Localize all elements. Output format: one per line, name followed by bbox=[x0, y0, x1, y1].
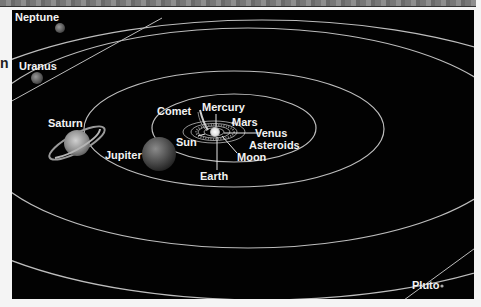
label-sun: Sun bbox=[176, 137, 197, 148]
solar-system-diagram: Neptune Uranus Saturn Jupiter Comet Merc… bbox=[12, 10, 474, 299]
label-pluto: Pluto bbox=[412, 280, 440, 291]
label-mars: Mars bbox=[232, 117, 258, 128]
label-comet: Comet bbox=[157, 106, 191, 117]
label-venus: Venus bbox=[255, 128, 287, 139]
orbit-saturn bbox=[84, 71, 384, 187]
label-saturn: Saturn bbox=[48, 118, 83, 129]
uranus-body bbox=[31, 72, 43, 84]
sun-body bbox=[210, 127, 220, 137]
label-mercury: Mercury bbox=[202, 102, 245, 113]
orbit-pluto-lower bbox=[404, 246, 474, 299]
side-text: n bbox=[0, 55, 9, 71]
label-earth: Earth bbox=[200, 171, 228, 182]
neptune-body bbox=[55, 23, 65, 33]
jupiter-body bbox=[142, 137, 176, 171]
label-moon: Moon bbox=[237, 152, 266, 163]
label-uranus: Uranus bbox=[19, 61, 57, 72]
top-banner bbox=[0, 0, 476, 7]
label-jupiter: Jupiter bbox=[105, 150, 142, 161]
label-neptune: Neptune bbox=[15, 12, 59, 23]
pluto-body bbox=[440, 284, 443, 287]
label-asteroids: Asteroids bbox=[249, 140, 300, 151]
